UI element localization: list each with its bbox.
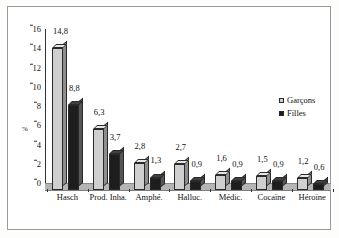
y-tick-mark [30,25,33,26]
y-tick-mark [30,44,33,45]
value-label-girls: 0,9 [232,160,243,169]
bar-girls [272,181,283,190]
figure-frame: 0246810121416 14,88,86,33,72,81,32,70,91… [7,6,331,230]
y-tick-mark [34,140,37,141]
bar-boys [93,129,104,190]
legend-item-garcons: Garçons [279,95,315,106]
chart-legend: Garçons Filles [279,95,315,121]
bar-girls [68,105,79,190]
bar-boys [297,178,308,190]
bar-girls [150,178,161,191]
bar-boys [52,48,63,190]
bar-boys [134,163,145,190]
y-axis-line [45,29,46,189]
y-tick-label: 12 [33,63,42,72]
y-tick-mark [34,102,37,103]
x-tick-label: Héroïne [292,193,333,202]
x-tick-label: Médic. [210,193,251,202]
value-label-girls: 0,9 [191,160,202,169]
legend-item-filles: Filles [279,108,315,119]
y-tick-label: 8 [37,102,41,111]
y-tick-mark [34,179,37,180]
y-tick-mark [34,121,37,122]
x-tick-label: Halluc. [169,193,210,202]
bar-boys [215,175,226,190]
bar-front [68,105,79,190]
bar-front [134,163,145,190]
value-label-girls: 8,8 [69,84,80,93]
bar-girls [313,184,324,190]
bar-group [129,36,170,190]
y-tick-mark [34,160,37,161]
bar-front [313,184,324,190]
value-label-boys: 1,6 [216,154,227,163]
bar-boys [256,176,267,190]
bar-side [161,170,165,186]
bar-side [63,40,67,186]
x-tick-mark [210,189,211,192]
legend-swatch-filles [279,111,284,116]
bar-boys [174,164,185,190]
legend-swatch-garcons [279,98,284,103]
bar-front [190,181,201,190]
bar-front [52,48,63,190]
bar-girls [190,181,201,190]
legend-label-filles: Filles [287,108,306,119]
bar-side [79,98,83,186]
bar-front [256,176,267,190]
y-axis-title: % [22,125,28,133]
y-tick-label: 16 [33,25,42,34]
x-tick-mark [169,189,170,192]
x-tick-label: Hasch [47,193,88,202]
bar-group [210,36,251,190]
value-label-boys: 2,8 [135,142,146,151]
bar-front [150,178,161,191]
bar-front [272,181,283,190]
value-label-girls: 1,3 [151,156,162,165]
y-tick-label: 10 [33,83,42,92]
y-tick-label: 14 [33,44,42,53]
x-tick-mark [88,189,89,192]
bar-girls [231,181,242,190]
chart-figure: 0246810121416 14,88,86,33,72,81,32,70,91… [0,0,339,238]
bar-front [109,154,120,190]
y-tick-label: 4 [37,140,41,149]
x-tick-label: Prod. Inha. [88,193,129,202]
bar-front [93,129,104,190]
bar-side [104,122,108,186]
x-tick-mark [47,189,48,192]
value-label-boys: 1,2 [298,157,309,166]
bar-group [47,36,88,190]
x-tick-mark [333,189,334,192]
bar-girls [109,154,120,190]
value-label-boys: 6,3 [94,108,105,117]
y-tick-label: 2 [37,160,41,169]
value-label-boys: 2,7 [175,143,186,152]
bar-front [297,178,308,190]
bar-front [174,164,185,190]
y-tick-mark [30,83,33,84]
bar-group [169,36,210,190]
value-label-boys: 1,5 [257,155,268,164]
legend-label-garcons: Garçons [287,95,315,106]
y-tick-label: 0 [37,179,41,188]
x-tick-label: Cocaïne [251,193,292,202]
bar-front [231,181,242,190]
value-label-girls: 0,6 [314,163,325,172]
x-tick-label: Amphé. [129,193,170,202]
value-label-boys: 14,8 [53,27,68,36]
bar-side [201,174,205,186]
x-tick-mark [129,189,130,192]
y-tick-label: 6 [37,121,41,130]
bar-front [215,175,226,190]
y-tick-mark [30,63,33,64]
x-tick-mark [251,189,252,192]
value-label-girls: 0,9 [273,160,284,169]
x-tick-mark [292,189,293,192]
value-label-girls: 3,7 [110,133,121,142]
